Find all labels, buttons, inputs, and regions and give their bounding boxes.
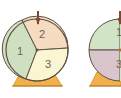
spinner-a-label-3: 3 (45, 58, 51, 70)
spinner-b-label-1: 1 (116, 26, 121, 38)
spinner-b: 1 3 (89, 19, 121, 81)
spinner-a-label-1: 1 (17, 45, 23, 57)
spinner-a: 1 2 3 (2, 16, 68, 81)
spinner-b-label-3: 3 (116, 58, 121, 70)
spinner-a-label-2: 2 (39, 28, 45, 40)
spinners-figure: 1 2 3 1 3 (0, 0, 121, 98)
